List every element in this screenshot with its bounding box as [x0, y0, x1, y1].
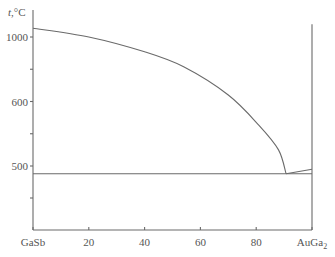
x-tick-label: 40 [139, 236, 151, 248]
y-axis-title: t,°C [8, 6, 26, 18]
axes [33, 10, 312, 230]
x-tick-label: AuGa2 [297, 236, 327, 251]
y-tick-label: 1000 [6, 31, 29, 43]
x-tick-label: 60 [195, 236, 207, 248]
y-tick-label: 500 [12, 160, 29, 172]
liquidus-AuGa2-side-line [286, 169, 312, 173]
x-ticks: GaSb20406080AuGa2 [21, 227, 327, 251]
y-axis-title-unit: ,°C [11, 6, 26, 18]
liquidus-GaSb-side-line [33, 28, 286, 173]
x-tick-label: 20 [83, 236, 95, 248]
series [33, 24, 312, 230]
x-tick-label: GaSb [21, 236, 46, 248]
y-tick-label: 600 [12, 96, 29, 108]
x-tick-label: 80 [251, 236, 263, 248]
y-ticks: 5006001000 [6, 31, 33, 198]
phase-diagram: 5006001000 GaSb20406080AuGa2 t,°C [0, 0, 335, 257]
